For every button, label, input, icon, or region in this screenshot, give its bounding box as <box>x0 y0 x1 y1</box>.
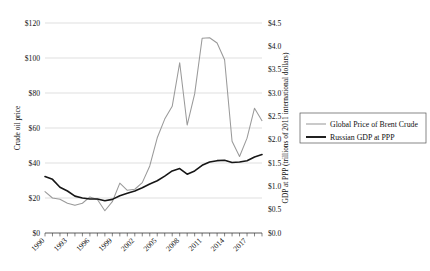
series-line-oil <box>45 38 262 211</box>
x-axis-tick-label: 1996 <box>74 236 91 253</box>
y2-axis-tick-label: $2.0 <box>268 135 281 144</box>
y2-axis-tick-label: $0.0 <box>268 229 281 238</box>
y-axis-tick-label: $100 <box>25 54 40 63</box>
x-axis-tick-label: 2005 <box>142 236 159 253</box>
y2-axis-title: GDP at PPP (trillions of 2011 internatio… <box>281 52 290 203</box>
y-axis-tick-label: $40 <box>29 159 41 168</box>
y-axis-tick-label: $80 <box>29 89 41 98</box>
y2-axis-tick-label: $3.5 <box>268 65 281 74</box>
x-axis-tick-label: 2014 <box>209 236 226 253</box>
y2-axis-tick-label: $1.0 <box>268 182 281 191</box>
y-axis-tick-label: $120 <box>25 19 40 28</box>
y-axis-title: Crude oil price <box>13 105 22 150</box>
y2-axis-tick-label: $3.0 <box>268 89 281 98</box>
x-axis-tick-label: 2008 <box>164 236 181 253</box>
series-line-gdp <box>45 155 262 201</box>
y-axis-tick-label: $60 <box>29 124 41 133</box>
x-axis-tick-label: 2011 <box>187 236 204 253</box>
chart-svg: $0$20$40$60$80$100$120$0.0$0.5$1.0$1.5$2… <box>0 0 430 271</box>
x-axis-tick-label: 2017 <box>231 236 248 253</box>
chart-figure: $0$20$40$60$80$100$120$0.0$0.5$1.0$1.5$2… <box>0 0 430 271</box>
y2-axis-tick-label: $4.0 <box>268 42 281 51</box>
y2-axis-tick-label: $4.5 <box>268 19 281 28</box>
y-axis-tick-label: $20 <box>29 194 41 203</box>
x-axis-tick-label: 1993 <box>52 236 69 253</box>
y2-axis-tick-label: $2.5 <box>268 112 281 121</box>
y2-axis-tick-label: $1.5 <box>268 159 281 168</box>
legend-label: Russian GDP at PPP <box>330 133 395 142</box>
x-axis-tick-label: 1999 <box>97 236 114 253</box>
y2-axis-tick-label: $0.5 <box>268 205 281 214</box>
x-axis-tick-label: 1990 <box>29 236 46 253</box>
x-axis-tick-label: 2002 <box>119 236 136 253</box>
legend-label: Global Price of Brent Crude <box>330 120 418 129</box>
